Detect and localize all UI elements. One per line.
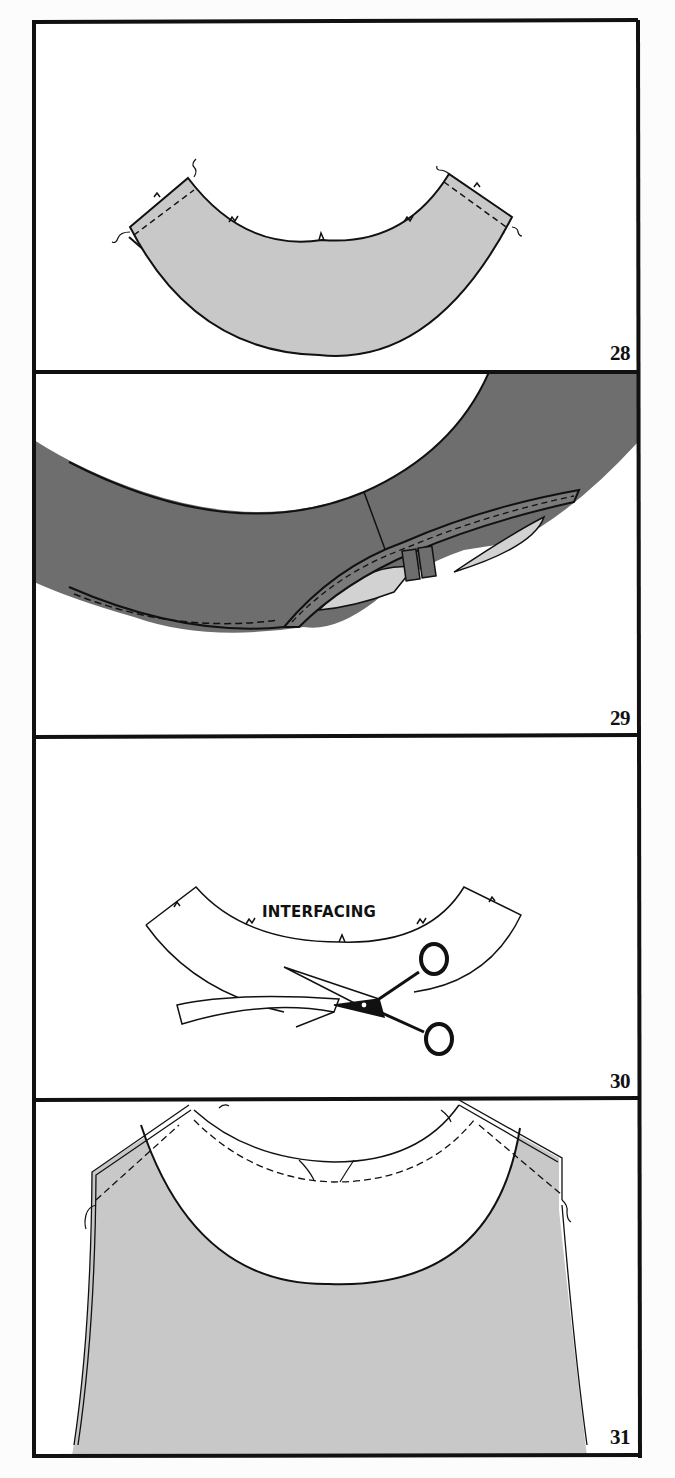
figure-panel-30: INTERFACING 30: [34, 737, 638, 1100]
figure-number: 28: [610, 341, 630, 366]
figure-panel-29: 29: [34, 372, 638, 737]
collar-facing-illustration: [34, 22, 638, 372]
instruction-page: 28 29: [0, 0, 675, 1478]
bodice-neckline-illustration: [34, 1100, 638, 1456]
figure-panel-31: 31: [34, 1100, 638, 1456]
neckline-facing-illustration: [34, 372, 638, 737]
figure-number: 30: [610, 1069, 630, 1094]
figure-number: 29: [610, 706, 630, 731]
interfacing-label: INTERFACING: [262, 903, 376, 921]
figure-panel-28: 28: [34, 22, 638, 372]
figure-number: 31: [610, 1425, 630, 1450]
